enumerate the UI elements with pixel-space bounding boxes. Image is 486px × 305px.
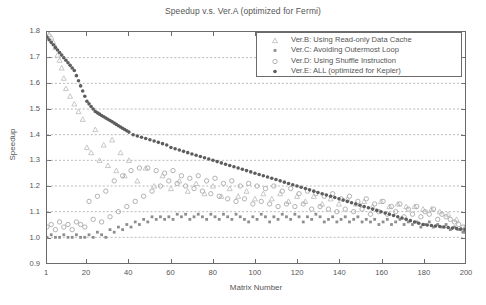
x-axis-tick-label: 80 <box>208 268 216 277</box>
x-axis-tick-label: 180 <box>417 268 430 277</box>
legend-label: Ver.E: ALL (optimized for Kepler) <box>291 66 401 76</box>
legend: Ver.B: Using Read-only Data CacheVer.C: … <box>256 32 462 77</box>
x-axis-tick-label: 1 <box>44 268 48 277</box>
y-axis-tick-label: 1.6 <box>0 78 40 87</box>
x-axis-tick-label: 160 <box>375 268 388 277</box>
y-axis-tick-label: 1.1 <box>0 207 40 216</box>
page-title: Speedup v.s. Ver.A (optimized for Fermi) <box>0 6 486 16</box>
y-axis-tick-label: 1.0 <box>0 233 40 242</box>
x-axis-tick-label: 200 <box>460 268 473 277</box>
x-axis-tick-label: 120 <box>291 268 304 277</box>
y-axis-label: Speedup <box>8 115 17 175</box>
chart-figure: Speedup v.s. Ver.A (optimized for Fermi)… <box>0 0 486 305</box>
x-axis-tick-label: 140 <box>333 268 346 277</box>
square-marker-icon <box>269 45 281 55</box>
y-axis-tick-label: 1.5 <box>0 104 40 113</box>
x-axis-tick-label: 40 <box>124 268 132 277</box>
y-axis-tick-label: 0.9 <box>0 259 40 268</box>
y-axis-tick-label: 1.7 <box>0 52 40 61</box>
y-axis-tick-label: 1.3 <box>0 155 40 164</box>
legend-item: Ver.C: Avoiding Outermost Loop <box>257 45 461 55</box>
filled-star-marker-icon <box>269 66 281 76</box>
legend-label: Ver.C: Avoiding Outermost Loop <box>291 45 399 55</box>
x-axis-label: Matrix Number <box>46 283 466 292</box>
x-axis-tick-label: 20 <box>82 268 90 277</box>
y-axis-tick-label: 1.4 <box>0 130 40 139</box>
legend-label: Ver.D: Using Shuffle Instruction <box>291 56 396 66</box>
legend-item: Ver.E: ALL (optimized for Kepler) <box>257 66 461 76</box>
y-axis-tick-label: 1.8 <box>0 26 40 35</box>
circle-marker-icon <box>269 56 281 66</box>
x-axis-tick-label: 60 <box>166 268 174 277</box>
triangle-marker-icon <box>269 35 281 45</box>
legend-item: Ver.D: Using Shuffle Instruction <box>257 56 461 66</box>
legend-item: Ver.B: Using Read-only Data Cache <box>257 35 461 45</box>
x-axis-tick-label: 100 <box>249 268 262 277</box>
y-axis-tick-label: 1.2 <box>0 181 40 190</box>
legend-label: Ver.B: Using Read-only Data Cache <box>291 35 412 45</box>
